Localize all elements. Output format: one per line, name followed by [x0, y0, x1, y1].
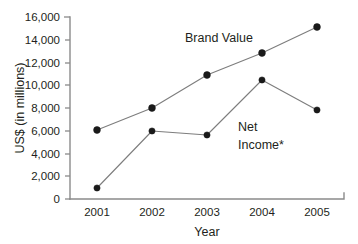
x-axis	[70, 193, 344, 199]
net-income-point-2005	[314, 107, 320, 113]
y-axis-tick-labels: 16,000 14,000 12,000 10,000 8,000 6,000 …	[25, 11, 60, 205]
x-axis-line	[70, 193, 344, 199]
x-tick-label: 2005	[304, 206, 330, 218]
brand-value-point-2004	[259, 50, 266, 57]
y-tick-label: 4,000	[31, 148, 60, 160]
y-axis-title: US$ (in millions)	[13, 63, 27, 154]
y-axis	[64, 17, 70, 199]
chart-canvas: 16,000 14,000 12,000 10,000 8,000 6,000 …	[0, 0, 358, 244]
x-tick-label: 2003	[194, 206, 220, 218]
y-tick-label: 8,000	[31, 102, 60, 114]
x-axis-tick-labels: 2001 2002 2003 2004 2005	[84, 206, 330, 218]
y-tick-label: 14,000	[25, 34, 60, 46]
y-tick-label: 16,000	[25, 11, 60, 23]
y-tick-label: 2,000	[31, 170, 60, 182]
brand-value-point-2002	[149, 105, 156, 112]
y-tick-label: 12,000	[25, 57, 60, 69]
y-tick-label: 0	[54, 193, 60, 205]
line-chart-figure: 16,000 14,000 12,000 10,000 8,000 6,000 …	[0, 0, 358, 244]
net-income-annotation-line1: Net	[238, 120, 258, 134]
y-tick-label: 10,000	[25, 79, 60, 91]
x-tick-label: 2004	[249, 206, 275, 218]
net-income-point-2002	[149, 128, 155, 134]
x-axis-title: Year	[194, 225, 219, 239]
x-tick-label: 2001	[84, 206, 110, 218]
net-income-point-2003	[204, 132, 210, 138]
brand-value-point-2001	[94, 127, 101, 134]
y-tick-label: 6,000	[31, 125, 60, 137]
series-net-income	[94, 77, 320, 191]
brand-value-point-2005	[314, 24, 321, 31]
net-income-point-2004	[259, 77, 265, 83]
net-income-annotation-line2: Income*	[238, 138, 284, 152]
x-tick-label: 2002	[139, 206, 165, 218]
net-income-point-2001	[94, 185, 100, 191]
brand-value-point-2003	[204, 72, 211, 79]
brand-value-annotation: Brand Value	[185, 31, 253, 45]
